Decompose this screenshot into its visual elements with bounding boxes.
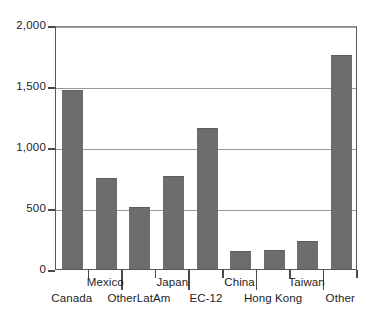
x-tick-mark	[256, 270, 258, 290]
bar	[129, 207, 150, 269]
y-tick-label: 1,500	[0, 80, 46, 92]
bar	[264, 250, 285, 269]
x-tick-label: EC-12	[189, 292, 222, 304]
x-tick-mark	[356, 270, 358, 278]
x-tick-label: Mexico	[87, 276, 124, 288]
x-tick-label: China	[224, 276, 255, 288]
x-tick-label: OtherLatAm	[107, 292, 170, 304]
y-tick-label: 500	[0, 202, 46, 214]
bar	[197, 128, 218, 269]
y-tick-label: 1,000	[0, 141, 46, 153]
bar	[96, 178, 117, 269]
bar	[297, 241, 318, 269]
y-tick-label: 2,000	[0, 19, 46, 31]
x-tick-label: Hong Kong	[244, 292, 302, 304]
y-tick-mark	[48, 148, 55, 150]
gridline	[56, 88, 356, 89]
bar-chart: 05001,0001,5002,000 CanadaMexicoOtherLat…	[0, 0, 372, 328]
x-tick-mark	[188, 270, 190, 290]
y-tick-label: 0	[0, 263, 46, 275]
plot-area	[55, 26, 357, 270]
x-tick-label: Other	[326, 292, 355, 304]
bar	[331, 55, 352, 269]
y-tick-mark	[48, 26, 55, 28]
y-tick-mark	[48, 87, 55, 89]
x-tick-label: Canada	[51, 292, 92, 304]
y-tick-mark	[48, 270, 55, 272]
bar	[230, 251, 251, 269]
bar	[163, 176, 184, 269]
x-tick-label: Taiwan	[288, 276, 324, 288]
x-tick-label: Japan	[157, 276, 189, 288]
y-tick-mark	[48, 209, 55, 211]
gridline	[56, 27, 356, 28]
bar	[62, 90, 83, 269]
